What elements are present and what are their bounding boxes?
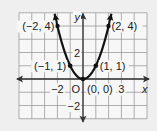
y-tick-label: −2 [67, 100, 80, 112]
x-tick-label: 3 [118, 83, 124, 95]
data-point [81, 77, 86, 82]
point-label: (2, 4) [112, 20, 138, 32]
data-point [106, 24, 111, 29]
point-label: (−2, 4) [22, 20, 54, 32]
point-label: (0, 0) [87, 83, 113, 95]
point-label: (1, 1) [100, 60, 126, 72]
y-tick-label: 2 [74, 47, 80, 59]
point-label: (−1, 1) [34, 60, 66, 72]
parabola-graph: (−2, 4)(−1, 1)(0, 0)(1, 1)(2, 4)−232−2Ox… [0, 0, 157, 131]
x-tick-label: −2 [51, 83, 64, 95]
data-point [68, 63, 73, 68]
data-point [94, 63, 99, 68]
data-point [55, 24, 60, 29]
origin-label: O [71, 83, 80, 95]
x-axis-label: x [141, 83, 148, 95]
